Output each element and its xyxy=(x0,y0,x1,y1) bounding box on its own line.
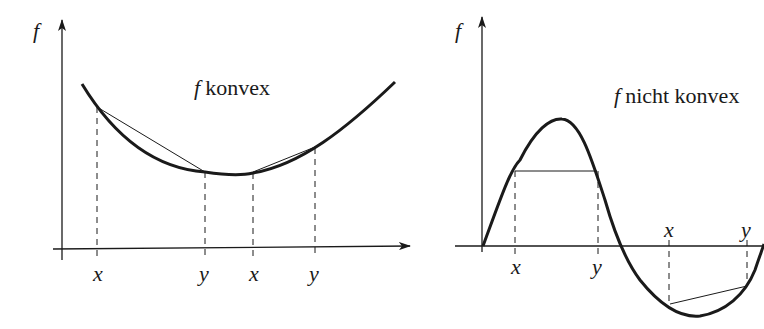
x-axis xyxy=(53,246,410,249)
tick-label-y1: y xyxy=(590,254,602,279)
tick-label-y1: y xyxy=(197,261,209,286)
dashed-guides xyxy=(515,171,747,304)
convex-title: fkonvex xyxy=(194,75,270,100)
convex-plot: f x y x y fkonvex xyxy=(33,18,410,286)
nonconvex-title: fnicht konvex xyxy=(614,83,739,108)
chord-2 xyxy=(253,147,315,172)
nonconvex-curve xyxy=(483,119,764,316)
y-axis-label: f xyxy=(33,18,42,43)
dashed-guides xyxy=(97,107,315,256)
chord-2 xyxy=(670,286,747,304)
chord-1 xyxy=(97,107,205,172)
tick-label-y2: y xyxy=(739,217,751,242)
nonconvex-plot: f x y x y fnicht konvex xyxy=(455,17,764,316)
tick-label-x2: x xyxy=(248,261,259,286)
tick-label-x1: x xyxy=(510,254,521,279)
tick-label-x1: x xyxy=(92,261,103,286)
tick-label-x2: x xyxy=(663,217,674,242)
y-axis-label: f xyxy=(455,18,464,43)
convexity-diagram: f x y x y fkonvex f x xyxy=(0,0,764,329)
tick-label-y2: y xyxy=(307,261,319,286)
